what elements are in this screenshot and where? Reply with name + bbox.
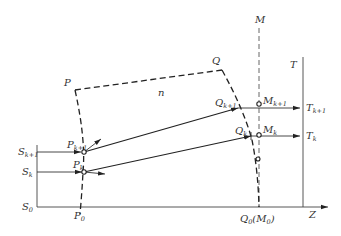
- label-s-k: Sk: [22, 166, 33, 179]
- point-m-mid: [256, 157, 260, 161]
- label-t-k1: Tk+1: [306, 102, 326, 115]
- label-q-k1: Qk+1: [215, 97, 237, 110]
- label-m: M: [254, 14, 266, 25]
- label-t: T: [290, 59, 298, 70]
- label-m-k: Mk: [262, 124, 277, 137]
- label-q-k: Qk: [235, 125, 247, 138]
- optical-path-diagram: P Q M T Z n Sk+1 Sk S0 Pk+1 Pk P0 Qk+1 Q…: [0, 0, 341, 236]
- point-m-k: [257, 133, 261, 137]
- label-p: P: [63, 77, 71, 88]
- ray-p-k1-to-q-k1: [84, 108, 238, 152]
- ray-p-k-to-q-k: [84, 136, 251, 172]
- label-z: Z: [308, 209, 317, 220]
- label-n: n: [158, 87, 164, 98]
- label-q: Q: [212, 55, 220, 66]
- label-s-k1: Sk+1: [18, 146, 38, 159]
- label-p-0: P0: [73, 210, 85, 223]
- label-p-k1: Pk+1: [66, 139, 87, 152]
- point-m-k1: [257, 102, 261, 106]
- normal-p-k: [84, 172, 105, 174]
- pq-edge: [75, 70, 222, 90]
- label-p-k: Pk: [72, 159, 84, 172]
- label-m-k1: Mk+1: [262, 95, 287, 108]
- label-t-k: Tk: [306, 130, 317, 143]
- label-q-0-m-0: Q0(M0): [240, 213, 275, 226]
- label-s-0: S0: [22, 201, 33, 214]
